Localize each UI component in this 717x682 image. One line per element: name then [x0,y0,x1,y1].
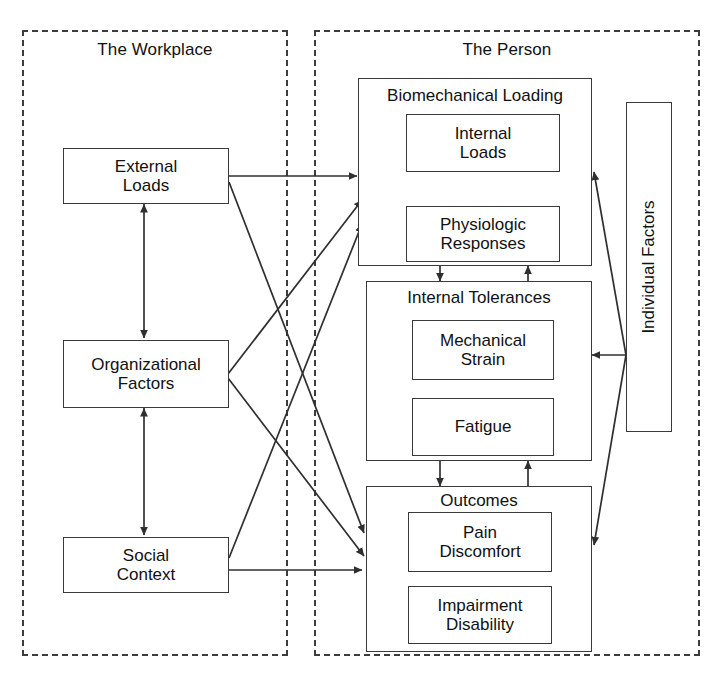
box-physiologic-responses-line2: Responses [440,234,525,253]
box-mechanical-strain-line1: Mechanical [440,331,526,350]
group-internal-tolerances-label: Internal Tolerances [367,288,591,308]
box-mechanical-strain-line2: Strain [461,350,505,369]
box-individual-factors[interactable]: Individual Factors [626,102,672,432]
box-social-context[interactable]: Social Context [63,537,229,593]
diagram-canvas: The Workplace The Person [0,0,717,682]
group-outcomes-label: Outcomes [367,491,591,511]
box-impairment-disability-line2: Disability [446,615,514,634]
box-internal-loads[interactable]: Internal Loads [406,114,560,172]
box-impairment-disability[interactable]: Impairment Disability [408,586,552,644]
box-organizational-factors-line2: Factors [118,374,175,393]
box-individual-factors-label: Individual Factors [639,200,659,333]
box-physiologic-responses-line1: Physiologic [440,215,526,234]
box-mechanical-strain[interactable]: Mechanical Strain [412,320,554,380]
box-pain-discomfort-line2: Discomfort [439,542,520,561]
box-pain-discomfort[interactable]: Pain Discomfort [408,512,552,572]
box-internal-loads-line1: Internal [455,124,512,143]
box-impairment-disability-line1: Impairment [437,596,522,615]
box-physiologic-responses[interactable]: Physiologic Responses [406,206,560,262]
box-pain-discomfort-line1: Pain [463,523,497,542]
workplace-region-title: The Workplace [22,40,288,60]
box-internal-loads-line2: Loads [460,143,506,162]
box-fatigue-line1: Fatigue [455,417,512,436]
box-external-loads-line1: External [115,157,177,176]
box-organizational-factors[interactable]: Organizational Factors [63,340,229,408]
box-social-context-line2: Context [117,565,176,584]
box-fatigue[interactable]: Fatigue [412,398,554,456]
box-social-context-line1: Social [123,546,169,565]
box-external-loads[interactable]: External Loads [63,148,229,204]
group-biomechanical-loading-label: Biomechanical Loading [359,86,591,106]
box-external-loads-line2: Loads [123,176,169,195]
box-organizational-factors-line1: Organizational [91,355,201,374]
person-region-title: The Person [314,40,700,60]
